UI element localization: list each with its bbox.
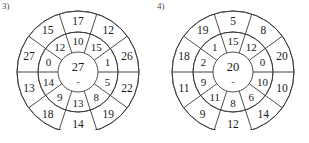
outer-ring-cell: 19 bbox=[103, 108, 115, 120]
middle-ring-cell: 14 bbox=[43, 76, 55, 88]
middle-ring-cell: 9 bbox=[201, 76, 207, 88]
middle-ring-cell: 10 bbox=[73, 35, 85, 47]
outer-ring-cell: 27 bbox=[23, 50, 35, 62]
outer-ring-cell: 26 bbox=[121, 50, 133, 62]
puzzle-label-4: 4) bbox=[157, 1, 165, 12]
puzzle-wheel-3: 3) 1015158139140121712262219141813271527… bbox=[0, 0, 154, 143]
middle-ring-cell: 9 bbox=[57, 91, 63, 103]
outer-ring-cell: 14 bbox=[258, 108, 270, 120]
puzzle-label-3: 3) bbox=[2, 1, 10, 12]
middle-ring-cell: 6 bbox=[248, 91, 254, 103]
center-value: 27 bbox=[72, 60, 85, 74]
outer-ring-cell: 18 bbox=[42, 108, 54, 120]
middle-ring-cell: 13 bbox=[73, 97, 85, 109]
middle-ring-cell: 5 bbox=[105, 76, 111, 88]
outer-ring-cell: 17 bbox=[72, 15, 84, 27]
middle-ring-cell: 15 bbox=[228, 35, 240, 47]
outer-ring-cell: 19 bbox=[197, 24, 209, 36]
outer-ring-cell: 20 bbox=[276, 50, 288, 62]
center-operator: - bbox=[76, 76, 79, 87]
center-value: 20 bbox=[227, 60, 240, 74]
outer-ring-cell: 22 bbox=[121, 82, 133, 94]
outer-ring-cell: 9 bbox=[200, 108, 206, 120]
worksheet-page: 3) 1015158139140121712262219141813271527… bbox=[0, 0, 309, 143]
middle-ring-cell: 8 bbox=[230, 97, 236, 109]
outer-ring-cell: 15 bbox=[42, 24, 54, 36]
outer-ring-cell: 14 bbox=[72, 118, 84, 130]
middle-ring-cell: 1 bbox=[212, 41, 218, 53]
outer-ring-cell: 10 bbox=[276, 82, 288, 94]
center-operator: - bbox=[231, 76, 234, 87]
middle-ring-cell: 15 bbox=[91, 41, 103, 53]
outer-ring-cell: 11 bbox=[178, 82, 189, 94]
puzzle-wheel-4: 4) 151201068119215820101412911181920- bbox=[155, 0, 309, 143]
outer-ring-cell: 12 bbox=[103, 24, 115, 36]
middle-ring-cell: 0 bbox=[46, 56, 52, 68]
middle-ring-cell: 12 bbox=[246, 41, 257, 53]
middle-ring-cell: 0 bbox=[260, 56, 266, 68]
middle-ring-cell: 1 bbox=[105, 56, 111, 68]
middle-ring-cell: 8 bbox=[93, 91, 99, 103]
outer-ring-cell: 5 bbox=[230, 15, 236, 27]
middle-ring-cell: 11 bbox=[209, 91, 220, 103]
middle-ring-cell: 2 bbox=[201, 56, 207, 68]
outer-ring-cell: 12 bbox=[227, 118, 239, 130]
middle-ring-cell: 10 bbox=[257, 76, 269, 88]
wheel-diagram-3: 1015158139140121712262219141813271527- bbox=[16, 6, 140, 130]
outer-ring-cell: 18 bbox=[178, 50, 190, 62]
outer-ring-cell: 8 bbox=[260, 24, 266, 36]
middle-ring-cell: 12 bbox=[54, 41, 65, 53]
wheel-diagram-4: 151201068119215820101412911181920- bbox=[171, 6, 295, 130]
outer-ring-cell: 13 bbox=[23, 82, 35, 94]
